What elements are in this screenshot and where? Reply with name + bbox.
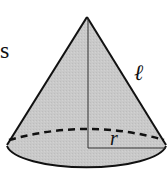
cone-body	[7, 17, 166, 167]
slant-height-label: ℓ	[134, 62, 143, 84]
cone-diagram: s ℓ r	[0, 0, 167, 173]
partial-text-label: s	[0, 38, 9, 62]
cone-figure	[0, 0, 167, 173]
radius-label: r	[110, 128, 118, 148]
